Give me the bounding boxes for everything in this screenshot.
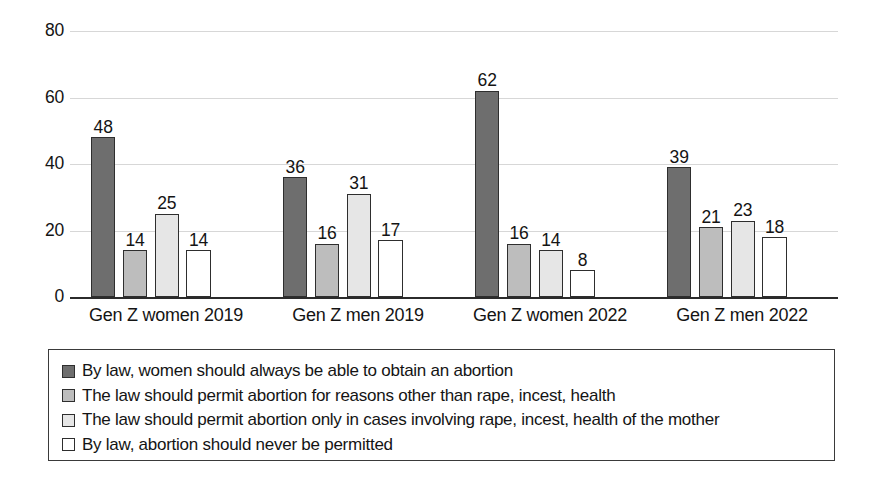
y-axis-tick-label: 0 (8, 286, 64, 307)
bar-value-label: 14 (541, 232, 560, 250)
x-axis-category-label: Gen Z women 2019 (70, 300, 262, 330)
bar-slot: 62 (471, 31, 503, 297)
x-axis-category-label: Gen Z men 2022 (646, 300, 838, 330)
bar[interactable]: 14 (123, 250, 147, 297)
legend-swatch-icon (62, 365, 75, 378)
bar-value-label: 23 (733, 202, 752, 220)
bar-slot: 14 (535, 31, 567, 297)
bar-value-label: 39 (670, 149, 689, 167)
bar[interactable]: 18 (762, 237, 786, 297)
bar-group-bars: 39212318 (646, 31, 838, 297)
legend-item-label: By law, abortion should never be permitt… (82, 435, 393, 455)
x-axis-category-label: Gen Z women 2022 (454, 300, 646, 330)
legend-swatch-icon (62, 438, 75, 451)
legend-swatch-icon (62, 414, 75, 427)
bar-slot: 23 (727, 31, 759, 297)
bar-value-label: 18 (765, 219, 784, 237)
bar-value-label: 62 (478, 72, 497, 90)
bar-slot: 21 (695, 31, 727, 297)
bar-slot: 31 (343, 31, 375, 297)
plot-area: 4814251436163117621614839212318 (70, 31, 838, 297)
bar-value-label: 17 (381, 222, 400, 240)
bar-value-label: 14 (125, 232, 144, 250)
legend-item[interactable]: The law should permit abortion for reaso… (62, 384, 834, 408)
bar-value-label: 16 (317, 225, 336, 243)
bar-group: 39212318 (646, 31, 838, 297)
bar-group: 48142514 (70, 31, 262, 297)
bar[interactable]: 16 (507, 244, 531, 297)
bar-group: 6216148 (454, 31, 646, 297)
y-axis-tick-label: 20 (8, 220, 64, 241)
bar[interactable]: 25 (155, 214, 179, 297)
bar-slot: 8 (567, 31, 599, 297)
bar-groups: 4814251436163117621614839212318 (70, 31, 838, 297)
bar[interactable]: 8 (570, 270, 594, 297)
bar[interactable]: 21 (699, 227, 723, 297)
legend-item-label: By law, women should always be able to o… (82, 361, 513, 381)
bar-value-label: 16 (509, 225, 528, 243)
y-axis-tick-label: 40 (8, 153, 64, 174)
bar-slot: 16 (503, 31, 535, 297)
axis-baseline (70, 297, 838, 299)
legend: By law, women should always be able to o… (48, 349, 835, 461)
x-axis-labels: Gen Z women 2019Gen Z men 2019Gen Z wome… (70, 300, 838, 330)
bar[interactable]: 36 (283, 177, 307, 297)
bar-slot: 14 (183, 31, 215, 297)
bar-slot: 48 (87, 31, 119, 297)
legend-item[interactable]: By law, women should always be able to o… (62, 359, 834, 383)
bar[interactable]: 14 (186, 250, 210, 297)
bar-value-label: 8 (578, 252, 588, 270)
legend-item-label: The law should permit abortion for reaso… (82, 386, 615, 406)
bar[interactable]: 62 (475, 91, 499, 297)
bar-value-label: 14 (189, 232, 208, 250)
bar-value-label: 25 (157, 195, 176, 213)
legend-swatch-icon (62, 389, 75, 402)
legend-item[interactable]: By law, abortion should never be permitt… (62, 433, 834, 457)
y-axis-tick-label: 80 (8, 20, 64, 41)
bar[interactable]: 39 (667, 167, 691, 297)
bar-slot: 18 (759, 31, 791, 297)
bar[interactable]: 17 (378, 240, 402, 297)
bar-value-label: 21 (701, 209, 720, 227)
bar-group-bars: 6216148 (454, 31, 646, 297)
bar-value-label: 48 (94, 119, 113, 137)
bar-slot: 36 (279, 31, 311, 297)
bar[interactable]: 31 (347, 194, 371, 297)
legend-item-label: The law should permit abortion only in c… (82, 410, 719, 430)
bar-value-label: 31 (349, 175, 368, 193)
bar-group: 36163117 (262, 31, 454, 297)
bar-slot: 39 (663, 31, 695, 297)
bar-value-label: 36 (286, 159, 305, 177)
bar[interactable]: 14 (539, 250, 563, 297)
bar-slot: 16 (311, 31, 343, 297)
legend-item[interactable]: The law should permit abortion only in c… (62, 408, 834, 432)
bar[interactable]: 48 (91, 137, 115, 297)
bar-chart-figure: 020406080 481425143616311762161483921231… (0, 0, 873, 488)
bar-slot: 17 (375, 31, 407, 297)
bar[interactable]: 23 (731, 221, 755, 297)
bar-group-bars: 48142514 (70, 31, 262, 297)
bar-group-bars: 36163117 (262, 31, 454, 297)
bar-slot: 25 (151, 31, 183, 297)
x-axis-category-label: Gen Z men 2019 (262, 300, 454, 330)
bar-slot: 14 (119, 31, 151, 297)
bar[interactable]: 16 (315, 244, 339, 297)
y-axis-tick-label: 60 (8, 87, 64, 108)
